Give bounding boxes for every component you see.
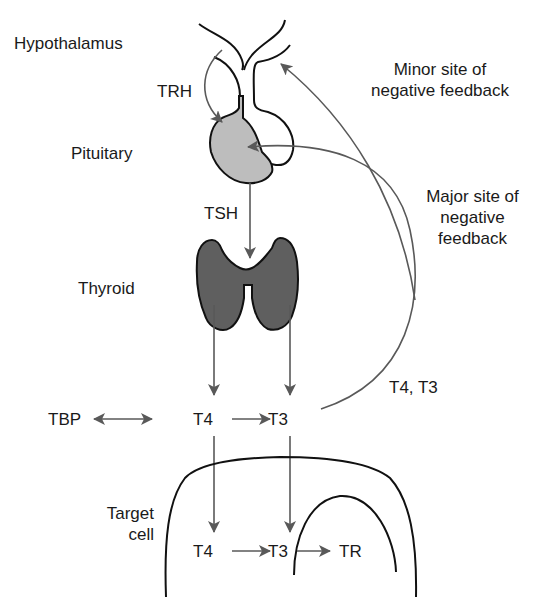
tsh-label: TSH: [204, 203, 238, 224]
thyroid-label: Thyroid: [78, 278, 135, 299]
minor-feedback-line-1: Minor site of: [355, 59, 525, 80]
nucleus-membrane: [294, 496, 396, 575]
t4-cell-label: T4: [193, 541, 213, 562]
t3-plasma-label: T3: [268, 409, 288, 430]
t4-t3-return-label: T4, T3: [389, 377, 438, 398]
tbp-label: TBP: [48, 409, 81, 430]
trh-label: TRH: [157, 81, 192, 102]
target-cell-label: Target cell: [90, 503, 154, 545]
major-feedback-label: Major site of negative feedback: [410, 186, 535, 249]
pituitary-gland: [210, 96, 272, 183]
target-cell-line-1: Target: [90, 503, 154, 524]
major-feedback-line-2: negative: [410, 207, 535, 228]
pituitary-label: Pituitary: [71, 143, 132, 164]
tr-label: TR: [339, 541, 362, 562]
t3-cell-label: T3: [268, 541, 288, 562]
minor-feedback-label: Minor site of negative feedback: [355, 59, 525, 101]
trh-arrow: [205, 50, 222, 122]
minor-feedback-line-2: negative feedback: [355, 80, 525, 101]
t4-plasma-label: T4: [193, 409, 213, 430]
thyroid-gland: [197, 238, 298, 330]
major-feedback-line-3: feedback: [410, 228, 535, 249]
target-cell-membrane: [166, 457, 417, 597]
major-feedback-line-1: Major site of: [410, 186, 535, 207]
hypothalamus-label: Hypothalamus: [14, 33, 123, 54]
target-cell-line-2: cell: [90, 524, 154, 545]
